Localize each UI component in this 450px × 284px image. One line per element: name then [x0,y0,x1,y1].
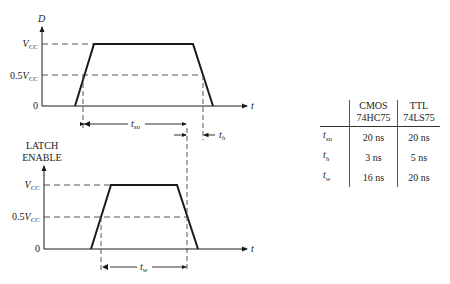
le-vcc-label: VCC [25,179,41,192]
tsu-arrowhead-left-icon [84,121,90,127]
d-half-vcc-label: 0.5VCC [10,70,38,83]
table-row: tsu 20 ns 20 ns [320,127,440,148]
le-axis-label-line2: ENABLE [22,152,61,163]
param-cell: tw [320,167,350,187]
tw-arrowhead-left-icon [102,264,108,270]
ttl-cell: 20 ns [398,127,441,148]
latch-enable-panel: LATCH ENABLE t VCC 0.5VCC 0 tw [12,128,254,274]
table-row: th 3 ns 5 ns [320,147,440,167]
d-vcc-label: VCC [23,38,39,51]
param-cell: th [320,147,350,167]
cmos-cell: 16 ns [350,167,398,187]
d-axis-label: D [37,13,46,24]
header-cmos: CMOS74HC75 [350,100,398,127]
th-label: th [219,129,226,142]
ttl-cell: 5 ns [398,147,441,167]
tsu-label: tsu [131,118,141,131]
d-zero-label: 0 [33,100,38,111]
ttl-cell: 20 ns [398,167,441,187]
le-axis-label-line1: LATCH [26,140,58,151]
table-header-row: CMOS74HC75 TTL74LS75 [320,100,440,127]
timing-parameters-table: CMOS74HC75 TTL74LS75 tsu 20 ns 20 ns th … [320,100,440,187]
d-waveform-panel: D t VCC 0.5VCC 0 tsu th [10,13,254,142]
table-row: tw 16 ns 20 ns [320,167,440,187]
tw-label: tw [140,261,148,274]
le-zero-label: 0 [35,243,40,254]
le-time-label: t [251,243,254,254]
d-time-label: t [251,100,254,111]
header-ttl: TTL74LS75 [398,100,441,127]
cmos-cell: 3 ns [350,147,398,167]
header-param [320,100,350,127]
param-cell: tsu [320,127,350,148]
le-half-vcc-label: 0.5VCC [12,211,40,224]
cmos-cell: 20 ns [350,127,398,148]
